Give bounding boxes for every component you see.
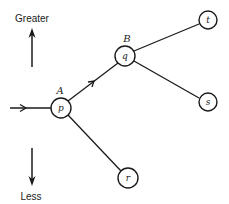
up-arrow-icon — [29, 28, 36, 67]
tree-diagram: Greater Less A B p q t s r — [0, 0, 229, 204]
edge-q-s — [134, 61, 199, 98]
node-s-label: s — [206, 97, 211, 107]
less-label: Less — [20, 191, 41, 202]
node-r-label: r — [126, 173, 131, 183]
node-q-label: q — [122, 51, 128, 61]
node-q: q — [115, 46, 135, 66]
input-arrow-icon — [10, 105, 51, 112]
down-arrow-icon — [29, 148, 36, 186]
greater-label: Greater — [15, 13, 50, 24]
node-s: s — [199, 93, 217, 111]
group-label-b: B — [122, 33, 130, 44]
node-r: r — [118, 168, 138, 188]
node-p: p — [51, 98, 71, 118]
edge-p-q — [68, 63, 118, 101]
edge-p-r — [68, 115, 121, 171]
group-label-a: A — [55, 85, 63, 96]
edge-q-t — [134, 24, 199, 51]
node-t: t — [199, 11, 217, 29]
node-p-label: p — [58, 103, 64, 113]
node-t-label: t — [206, 15, 210, 25]
